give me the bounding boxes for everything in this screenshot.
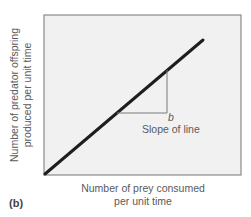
panel-label: (b) bbox=[9, 197, 23, 209]
x-axis-label-line-1: Number of prey consumed bbox=[81, 182, 205, 194]
x-axis-label-line-2: per unit time bbox=[114, 195, 172, 207]
y-axis-label-line-1: Number of predator offspring bbox=[8, 28, 20, 162]
slope-symbol: b bbox=[168, 111, 174, 123]
slope-label: Slope of line bbox=[142, 123, 200, 135]
y-axis-label-line-2: produced per unit time bbox=[21, 43, 33, 148]
chart: b Slope of line Number of predator offsp… bbox=[0, 0, 251, 217]
y-axis-label: Number of predator offspring produced pe… bbox=[8, 28, 33, 162]
